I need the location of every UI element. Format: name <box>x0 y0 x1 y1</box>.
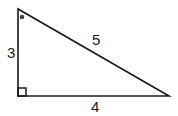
horizontal-leg-label: 4 <box>91 98 99 115</box>
vertical-leg-label: 3 <box>7 44 15 61</box>
triangle <box>18 9 169 96</box>
hypotenuse-label: 5 <box>92 31 100 48</box>
triangle-diagram: 3 4 5 <box>0 0 178 116</box>
right-angle-marker <box>18 88 26 96</box>
angle-dot-marker <box>20 15 25 20</box>
